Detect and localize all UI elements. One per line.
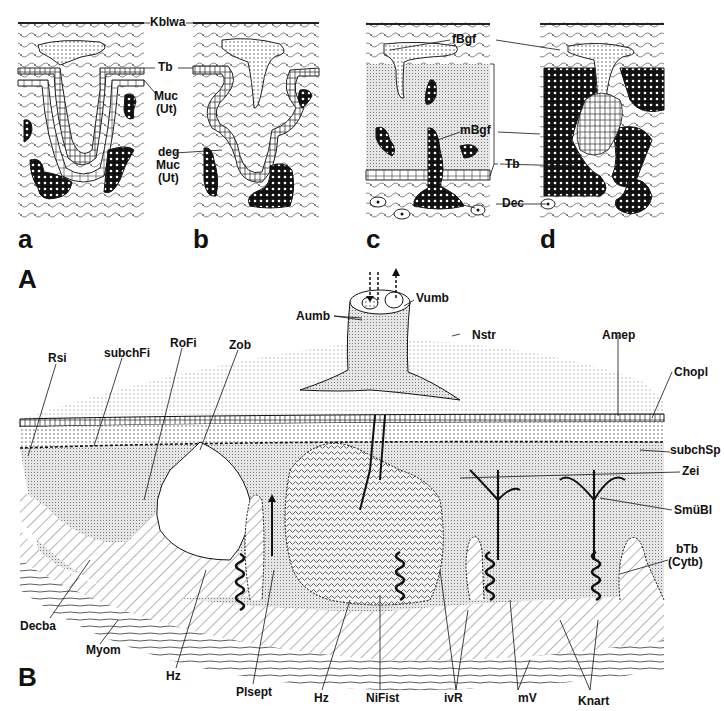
panel-d-drawing bbox=[540, 22, 664, 222]
label-subchsp: subchSp bbox=[670, 444, 721, 457]
label-fbgf: fBgf bbox=[452, 33, 476, 46]
label-ivr: ivR bbox=[444, 692, 463, 705]
label-vumb: Vumb bbox=[416, 292, 449, 305]
panel-b-drawing bbox=[193, 22, 319, 222]
label-plsept: Plsept bbox=[236, 686, 272, 699]
label-kblwa: Kblwa bbox=[150, 16, 185, 29]
label-zob: Zob bbox=[229, 339, 251, 352]
label-chopl: Chopl bbox=[674, 366, 708, 379]
label-myom: Myom bbox=[86, 644, 121, 657]
label-decba: Decba bbox=[20, 620, 56, 633]
label-nstr: Nstr bbox=[472, 329, 496, 342]
panel-letter-b: b bbox=[193, 226, 209, 252]
part-b-drawing bbox=[18, 268, 664, 690]
label-zei: Zei bbox=[682, 465, 699, 478]
label-subchfi: subchFi bbox=[104, 347, 150, 360]
label-cytb: (Cytb) bbox=[668, 556, 703, 569]
label-muc-ut: (Ut) bbox=[156, 103, 177, 116]
panel-letter-a: a bbox=[18, 226, 32, 252]
label-hz-2: Hz bbox=[314, 692, 329, 705]
label-rsi: Rsi bbox=[48, 352, 67, 365]
label-mv: mV bbox=[518, 692, 537, 705]
panel-a-drawing bbox=[18, 22, 144, 222]
label-nifist: NiFist bbox=[366, 692, 399, 705]
panel-letter-d: d bbox=[540, 226, 556, 252]
section-letter-A: A bbox=[18, 266, 37, 292]
label-aumb: Aumb bbox=[296, 310, 330, 323]
label-rofi: RoFi bbox=[170, 337, 197, 350]
label-hz-1: Hz bbox=[166, 670, 181, 683]
label-smubl: SmüBl bbox=[674, 504, 712, 517]
label-tb-ab: Tb bbox=[158, 61, 173, 74]
label-amep: Amep bbox=[602, 329, 635, 342]
panel-letter-c: c bbox=[366, 226, 380, 252]
section-letter-B: B bbox=[18, 664, 37, 690]
label-knart: Knart bbox=[578, 695, 609, 708]
label-deg-ut: (Ut) bbox=[158, 172, 179, 185]
panel-c-drawing bbox=[366, 22, 490, 222]
label-tb-cd: Tb bbox=[505, 158, 520, 171]
label-mbgf: mBgf bbox=[460, 124, 491, 137]
label-dec: Dec bbox=[502, 197, 524, 210]
